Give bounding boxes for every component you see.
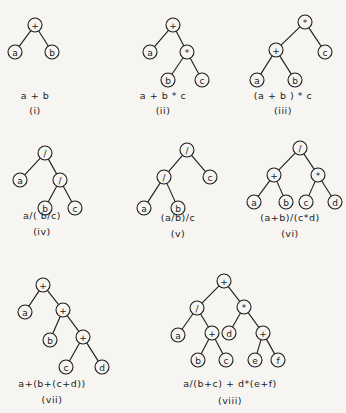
svg-text:d: d [226, 329, 232, 339]
svg-text:c: c [224, 356, 229, 366]
operand-node: a [18, 305, 32, 319]
tree-edge [29, 291, 39, 306]
tree-edge [19, 31, 31, 47]
tree-edge [53, 316, 60, 333]
tree-i: +ab [8, 18, 59, 59]
tree-edge [48, 186, 56, 202]
operand-node: b [279, 195, 293, 209]
operand-node: a [250, 73, 264, 87]
svg-text:+: + [31, 21, 39, 31]
operator-node: / [190, 301, 204, 315]
tree-edge [266, 339, 274, 354]
figure-numeral: (vi) [281, 228, 299, 239]
tree-edge [192, 155, 206, 171]
svg-text:b: b [195, 356, 201, 366]
tree-edge [309, 181, 315, 195]
tree-edge [39, 31, 49, 46]
svg-text:*: * [303, 18, 308, 28]
expression-label: (a + b ) * c [254, 90, 312, 101]
svg-text:b: b [165, 76, 171, 86]
expression-tree-diagram: +ab+a*bc*+cab/a/bc//cab/+*abcd+a+b+cd+/*… [0, 0, 346, 413]
tree-edge [261, 56, 273, 74]
operand-node: c [318, 45, 332, 59]
operand-node: b [191, 353, 205, 367]
operand-node: e [248, 353, 262, 367]
tree-edge [201, 314, 209, 327]
tree-ii: +a*bc [143, 18, 209, 87]
svg-text:b: b [283, 198, 289, 208]
svg-text:c: c [323, 48, 328, 58]
expression-label: a + b * c [140, 90, 186, 101]
tree-edge [167, 183, 175, 201]
tree-edge [169, 155, 183, 171]
tree-edge [69, 343, 79, 361]
operator-node: + [166, 18, 180, 32]
svg-text:b: b [47, 336, 53, 346]
tree-edge [172, 58, 183, 74]
tree-vi: /+*abcd [247, 141, 342, 209]
tree-edge [281, 27, 300, 45]
tree-edge [182, 314, 193, 330]
figure-numeral: (vii) [42, 394, 63, 405]
svg-text:a: a [22, 308, 28, 318]
operand-node: c [59, 360, 73, 374]
tree-edge [280, 56, 292, 74]
tree-edge [201, 339, 209, 354]
operator-node: + [76, 330, 90, 344]
operator-node: / [293, 141, 307, 155]
operand-node: a [8, 45, 22, 59]
operand-node: a [247, 195, 261, 209]
svg-text:+: + [272, 46, 280, 56]
expression-label: (a+b)/(c*d) [260, 212, 319, 223]
tree-edge [176, 31, 184, 46]
tree-edge [155, 30, 169, 46]
operand-node: b [161, 73, 175, 87]
figure-numeral: (iv) [33, 226, 51, 237]
expression-label: a+(b+(c+d)) [18, 378, 85, 389]
operand-node: c [219, 353, 233, 367]
expression-label: a/( b/c) [23, 210, 61, 221]
operator-node: * [180, 45, 194, 59]
tree-edge [47, 290, 58, 304]
operand-node: b [43, 333, 57, 347]
tree-edge [232, 313, 240, 327]
operator-node: + [36, 278, 50, 292]
tree-edge [322, 181, 332, 196]
tree-edge [248, 313, 259, 328]
svg-text:a: a [17, 176, 23, 186]
svg-text:d: d [332, 198, 338, 208]
svg-text:a: a [141, 204, 147, 214]
operator-node: / [180, 143, 194, 157]
operand-node: a [137, 201, 151, 215]
svg-text:d: d [99, 363, 105, 373]
svg-text:+: + [79, 333, 87, 343]
operator-node: / [157, 170, 171, 184]
svg-text:*: * [242, 303, 247, 313]
tree-edge [48, 159, 56, 174]
operand-node: a [171, 328, 185, 342]
tree-iv: /a/bc [13, 146, 82, 215]
tree-edge [304, 154, 314, 169]
figure-numeral: (i) [29, 105, 41, 116]
figure-numeral: (ii) [156, 105, 171, 116]
operand-node: b [45, 45, 59, 59]
tree-edge [87, 343, 99, 361]
operand-node: c [195, 73, 209, 87]
tree-edge [215, 339, 223, 354]
svg-text:b: b [49, 48, 55, 58]
figure-numeral: (iii) [274, 105, 292, 116]
operator-node: / [38, 146, 52, 160]
operator-node: + [256, 326, 270, 340]
svg-text:+: + [39, 281, 47, 291]
tree-edge [257, 340, 261, 354]
operand-node: c [203, 170, 217, 184]
svg-text:+: + [220, 277, 228, 287]
svg-text:a: a [251, 198, 257, 208]
operand-node: a [143, 45, 157, 59]
svg-text:*: * [185, 48, 190, 58]
operand-node: f [271, 353, 285, 367]
operator-node: + [56, 303, 70, 317]
operator-node: + [269, 43, 283, 57]
operator-node: + [205, 326, 219, 340]
expression-label: (a/b)/c [161, 212, 195, 223]
